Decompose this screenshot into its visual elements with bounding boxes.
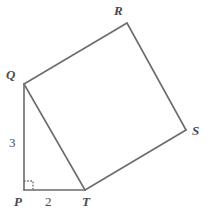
edge-RS bbox=[127, 23, 186, 130]
side-length-pq: 3 bbox=[9, 136, 16, 149]
edge-QR bbox=[24, 23, 127, 84]
geometry-canvas bbox=[0, 0, 212, 216]
edge-QT bbox=[24, 84, 85, 190]
vertex-label-q: Q bbox=[6, 68, 15, 81]
geometry-figure: Q R S P T 3 2 bbox=[0, 0, 212, 216]
vertex-label-t: T bbox=[82, 195, 90, 208]
edge-ST bbox=[85, 130, 186, 190]
vertex-label-s: S bbox=[192, 124, 199, 137]
side-length-pt: 2 bbox=[45, 195, 52, 208]
right-angle-icon bbox=[24, 181, 33, 190]
vertex-label-r: R bbox=[114, 4, 123, 17]
vertex-label-p: P bbox=[14, 195, 22, 208]
